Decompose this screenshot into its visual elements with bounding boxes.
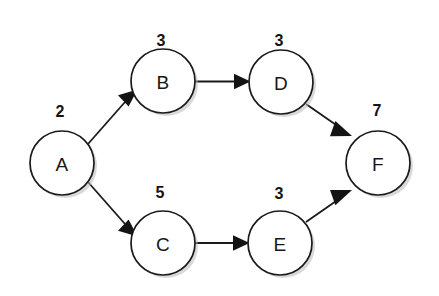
node-e-label: E [274,234,287,255]
edge-a-c[interactable] [88,182,138,237]
edge-b-d[interactable] [195,74,251,89]
node-c-label: C [156,234,170,255]
node-d-label: D [274,73,288,94]
node-f[interactable]: F [346,131,413,198]
edge-a-b[interactable] [88,90,138,145]
node-a[interactable]: A [30,131,97,198]
node-b-weight: 3 [157,32,166,49]
weight-label-layer: 2 3 5 3 3 7 [56,32,382,202]
edge-d-f-line [306,104,339,127]
graph-canvas: A B C D [0,0,439,296]
edge-c-e[interactable] [195,235,250,250]
node-e-weight: 3 [275,185,284,202]
edge-a-b-line [88,102,125,144]
edge-e-f-line [306,199,339,222]
node-a-weight: 2 [56,103,65,120]
node-a-label: A [56,154,69,175]
node-f-label: F [372,154,384,175]
node-b[interactable]: B [131,49,198,116]
node-e[interactable]: E [248,211,315,278]
edge-e-f[interactable] [306,190,352,222]
node-c-weight: 5 [156,184,165,201]
node-d-weight: 3 [275,32,284,49]
edge-d-f[interactable] [306,104,352,136]
node-c[interactable]: C [131,211,198,278]
edge-a-c-line [88,182,125,224]
graph-diagram: A B C D [0,0,439,296]
edge-layer [88,74,352,251]
node-f-weight: 7 [373,102,382,119]
node-d[interactable]: D [249,50,316,117]
node-b-label: B [157,72,170,93]
edge-b-d-arrowhead [234,74,251,89]
edge-c-e-arrowhead [233,235,250,250]
